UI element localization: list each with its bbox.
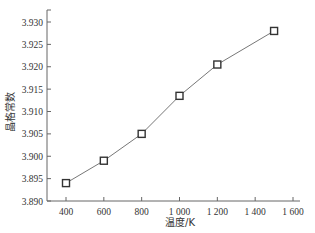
y-tick-label: 3.920 — [22, 62, 44, 72]
x-tick-label: 1 400 — [244, 207, 266, 217]
data-series — [63, 27, 278, 186]
x-tick-label: 1 000 — [169, 207, 191, 217]
data-point-marker — [271, 27, 278, 34]
x-tick-label: 600 — [97, 207, 112, 217]
data-point-marker — [214, 61, 221, 68]
y-tick-label: 3.890 — [22, 197, 44, 207]
data-point-marker — [100, 157, 107, 164]
x-axis-ticks: 4006008001 0001 2001 4001 600 — [59, 197, 304, 217]
x-tick-label: 1 600 — [282, 207, 304, 217]
y-tick-label: 3.905 — [22, 129, 44, 139]
x-tick-label: 1 200 — [207, 207, 229, 217]
y-tick-label: 3.925 — [22, 40, 44, 50]
x-tick-label: 400 — [59, 207, 74, 217]
y-tick-label: 3.900 — [22, 152, 44, 162]
y-axis-title: 晶格常数 — [4, 92, 16, 132]
x-axis-title: 温度/K — [165, 216, 195, 228]
data-point-marker — [63, 180, 70, 187]
x-tick-label: 800 — [135, 207, 150, 217]
data-point-marker — [138, 130, 145, 137]
y-tick-label: 3.930 — [22, 18, 44, 28]
data-point-marker — [176, 92, 183, 99]
line-chart: 3.8903.8953.9003.9053.9103.9153.9203.925… — [0, 0, 315, 233]
y-tick-label: 3.910 — [22, 107, 44, 117]
y-tick-label: 3.895 — [22, 174, 44, 184]
y-tick-label: 3.915 — [22, 85, 44, 95]
series-line — [66, 31, 274, 183]
